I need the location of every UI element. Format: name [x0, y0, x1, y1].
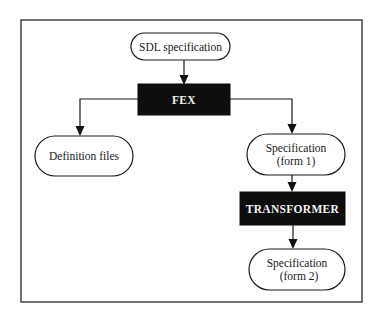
edge-fex-to-definition-files	[76, 99, 139, 136]
node-definition-files: Definition files	[35, 136, 133, 176]
edge-sdl-to-fex	[180, 60, 189, 85]
node-specification-form2: Specification (form 2)	[249, 249, 345, 290]
edge-transformer-to-spec-form2	[289, 225, 298, 249]
arrowhead-icon	[289, 239, 298, 249]
node-label: SDL specification	[139, 41, 222, 54]
arrowhead-icon	[288, 124, 297, 134]
node-label-line1: Specification	[266, 142, 327, 155]
node-fex: FEX	[138, 84, 230, 115]
node-label: Definition files	[49, 150, 119, 162]
node-sdl-specification: SDL specification	[131, 33, 230, 60]
node-label: FEX	[172, 94, 196, 106]
node-transformer: TRANSFORMER	[240, 192, 345, 225]
node-specification-form1: Specification (form 1)	[247, 134, 345, 175]
edge-fex-to-spec-form1	[230, 99, 297, 134]
node-label: TRANSFORMER	[246, 203, 340, 215]
node-label-line2: (form 1)	[277, 155, 316, 168]
node-label-line1: Specification	[267, 257, 328, 270]
flowchart-diagram: SDL specification FEX Definition files S…	[0, 0, 381, 320]
arrowhead-icon	[288, 182, 297, 192]
node-label-line2: (form 2)	[280, 270, 319, 283]
edge-spec-form1-to-transformer	[288, 175, 297, 192]
arrowhead-icon	[76, 126, 85, 136]
